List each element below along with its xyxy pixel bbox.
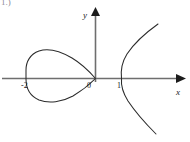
x-tick-label-minus2: -2	[21, 81, 28, 90]
curve-plot: -2 0 1 x y	[0, 0, 190, 142]
right-branch-upper-curve	[121, 24, 158, 79]
closed-loop-curve	[26, 50, 96, 102]
x-tick-label-zero: 0	[87, 81, 91, 90]
y-axis-label: y	[82, 10, 87, 20]
x-axis-arrowhead	[176, 74, 186, 83]
right-branch-lower-curve	[121, 79, 156, 135]
figure-container: 1.) -2 0 1 x y	[0, 0, 190, 142]
x-tick-label-one: 1	[117, 81, 121, 90]
x-axis-label: x	[175, 87, 180, 97]
y-axis-arrowhead	[91, 7, 100, 16]
